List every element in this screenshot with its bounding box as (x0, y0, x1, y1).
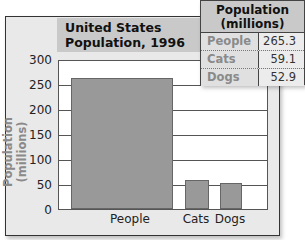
table-cell-value: 265.3 (259, 33, 304, 50)
table-header: Population (millions) (201, 1, 304, 33)
chart-title-line-1: United States (65, 20, 185, 35)
table-cell-value: 59.1 (259, 51, 304, 68)
table-row: People 265.3 (201, 33, 304, 51)
y-tick: 150 (18, 128, 52, 142)
y-tick: 50 (18, 178, 52, 192)
table-cell-name: Dogs (201, 69, 259, 86)
table-row: Dogs 52.9 (201, 69, 304, 86)
y-tick: 250 (18, 78, 52, 92)
y-tick: 300 (18, 53, 52, 67)
table-header-line-1: Population (201, 3, 304, 17)
y-tick: 0 (18, 203, 52, 217)
table-cell-name: People (201, 33, 259, 50)
x-label-people: People (100, 212, 160, 226)
y-tick: 200 (18, 103, 52, 117)
chart-title-box: United States Population, 1996 (57, 18, 203, 52)
data-table: Population (millions) People 265.3 Cats … (200, 0, 305, 85)
bar-dogs (220, 183, 242, 209)
x-label-cats: Cats (180, 212, 212, 226)
bar-people (71, 78, 173, 209)
chart-title-line-2: Population, 1996 (65, 35, 185, 50)
chart-title: United States Population, 1996 (65, 20, 185, 50)
table-cell-name: Cats (201, 51, 259, 68)
y-tick: 100 (18, 153, 52, 167)
table-row: Cats 59.1 (201, 51, 304, 69)
table-header-line-2: (millions) (201, 17, 304, 31)
x-label-dogs: Dogs (214, 212, 246, 226)
bar-cats (185, 180, 209, 209)
table-cell-value: 52.9 (259, 69, 304, 86)
